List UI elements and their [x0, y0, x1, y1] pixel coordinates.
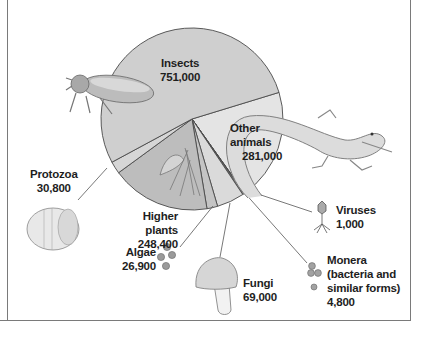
monera-leader — [243, 191, 307, 263]
label-fungi: Fungi 69,000 — [243, 276, 277, 304]
label-other-animals: Other animals 281,000 — [230, 121, 282, 163]
bacteria-icon — [308, 263, 322, 290]
label-insects: Insects 751,000 — [160, 56, 200, 84]
fungi-leader — [220, 203, 230, 257]
label-viruses: Viruses 1,000 — [336, 203, 376, 231]
algae-leader — [180, 206, 213, 247]
virus-icon — [314, 201, 330, 233]
protozoa-icon — [27, 208, 79, 250]
label-monera: Monera (bacteria and similar forms) 4,80… — [327, 253, 400, 309]
label-protozoa: Protozoa 30,800 — [30, 167, 78, 195]
label-algae: Algae 26,900 — [118, 245, 156, 273]
protozoa-leader — [78, 168, 107, 200]
mushroom-icon — [196, 258, 238, 315]
